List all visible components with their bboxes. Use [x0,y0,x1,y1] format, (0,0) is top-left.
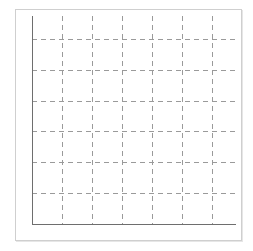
chart-container [0,0,253,251]
gridlines [32,16,236,224]
empty-plot-area [0,0,253,251]
